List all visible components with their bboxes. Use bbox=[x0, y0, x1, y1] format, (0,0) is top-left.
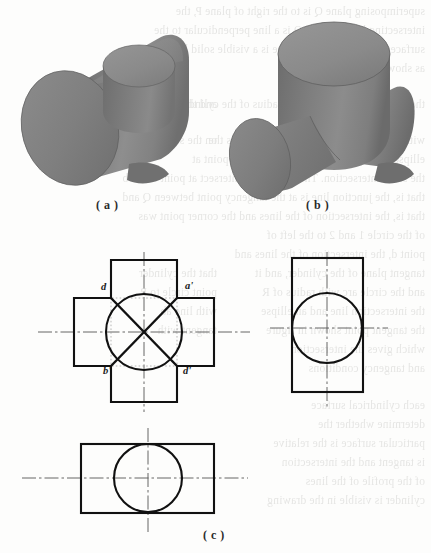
point-label-a-prime: a' bbox=[185, 280, 193, 291]
figure-a-svg bbox=[6, 4, 206, 194]
figure-a-vertical-boss bbox=[103, 45, 175, 133]
bleed-line: that is, the intersection of the lines a… bbox=[138, 207, 425, 226]
top-view-rectangle bbox=[81, 444, 214, 513]
figure-c-orthographic-views bbox=[0, 250, 431, 550]
figure-a-caption: ( a ) bbox=[96, 198, 119, 213]
front-view bbox=[38, 252, 250, 412]
figure-b-caption: ( b ) bbox=[306, 198, 329, 213]
point-label-b-prime: b' bbox=[103, 365, 111, 376]
figure-c-caption: ( c ) bbox=[203, 528, 225, 543]
figure-b-svg bbox=[218, 4, 423, 194]
figure-c-svg bbox=[0, 250, 431, 550]
figure-b-3d-solid bbox=[218, 4, 423, 194]
side-view-rectangle bbox=[292, 258, 363, 392]
figure-b-cylinder-top-face bbox=[278, 22, 390, 86]
top-view bbox=[22, 428, 248, 532]
bleed-line: of the circle 1 and 2 to the left of bbox=[267, 226, 425, 245]
side-view bbox=[270, 252, 388, 408]
figure-a-3d-solid bbox=[6, 4, 206, 194]
point-label-d: d bbox=[101, 281, 106, 292]
figure-a-boss-top-face bbox=[103, 45, 175, 87]
point-label-d-prime: d' bbox=[183, 365, 191, 376]
